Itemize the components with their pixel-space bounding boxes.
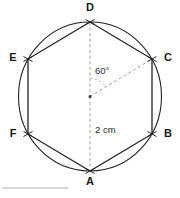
- vertex-label-c: C: [161, 52, 175, 63]
- geometry-canvas: [0, 0, 180, 198]
- vertex-label-b: B: [161, 128, 175, 139]
- geometry-figure: D C B A F E 60° 2 cm: [0, 0, 180, 198]
- radius-label-2cm: 2 cm: [95, 125, 116, 135]
- vertex-label-d: D: [0, 2, 180, 13]
- vertex-label-e: E: [6, 52, 20, 63]
- angle-arc-60: [90, 79, 105, 88]
- angle-label-60: 60°: [95, 66, 109, 76]
- center-point-marker: [89, 95, 92, 98]
- vertex-label-a: A: [0, 176, 180, 187]
- vertex-label-f: F: [6, 128, 20, 139]
